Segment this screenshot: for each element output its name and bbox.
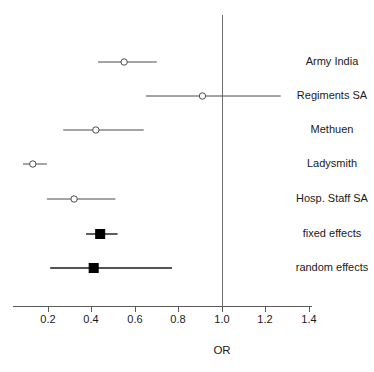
tick-label-1-2: 1.2 (257, 313, 272, 325)
study-effect-marker (71, 196, 77, 202)
study-effect-marker (121, 59, 127, 65)
row-label-random-effects: random effects (296, 261, 369, 273)
forest-row (50, 264, 172, 273)
x-axis-title: OR (213, 344, 230, 356)
row-label-methuen: Methuen (311, 123, 354, 135)
tick-label-1-0: 1.0 (214, 313, 229, 325)
forest-plot-canvas: 0.2 0.4 0.6 0.8 1.0 1.2 1.4 OR Army Indi… (0, 0, 374, 372)
tick-label-0-8: 0.8 (170, 313, 185, 325)
forest-rows (23, 59, 281, 273)
study-effect-marker (93, 127, 99, 133)
tick-label-0-2: 0.2 (40, 313, 55, 325)
study-effect-marker (30, 161, 36, 167)
study-effect-marker (199, 93, 205, 99)
summary-effect-marker (89, 264, 98, 273)
tick-label-1-4: 1.4 (301, 313, 316, 325)
row-label-hosp-staff-sa: Hosp. Staff SA (296, 192, 369, 204)
forest-row (98, 59, 157, 65)
forest-row (23, 161, 47, 167)
forest-row (47, 196, 116, 202)
forest-row-labels: Army India Regiments SA Methuen Ladysmit… (296, 55, 369, 273)
row-label-army-india: Army India (306, 55, 359, 67)
forest-row (146, 93, 281, 99)
x-axis-ticks (48, 306, 309, 312)
x-axis-tick-labels: 0.2 0.4 0.6 0.8 1.0 1.2 1.4 (40, 313, 316, 325)
summary-effect-marker (96, 230, 105, 239)
x-axis-group (13, 306, 312, 312)
row-label-regiments-sa: Regiments SA (297, 89, 368, 101)
row-label-fixed-effects: fixed effects (303, 227, 362, 239)
forest-row (63, 127, 143, 133)
row-label-ladysmith: Ladysmith (307, 157, 357, 169)
tick-label-0-6: 0.6 (127, 313, 142, 325)
forest-row (86, 230, 118, 239)
forest-plot: 0.2 0.4 0.6 0.8 1.0 1.2 1.4 OR Army Indi… (0, 0, 374, 372)
tick-label-0-4: 0.4 (83, 313, 98, 325)
